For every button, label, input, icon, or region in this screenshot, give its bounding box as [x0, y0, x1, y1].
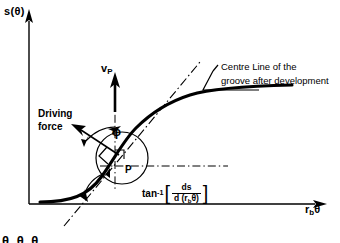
formula-denominator: d (rbθ) — [172, 193, 201, 204]
velocity-label: vP — [101, 62, 112, 76]
right-angle-marker — [99, 147, 108, 164]
engineering-diagram: s(θ) rbθ vP Driving force ϕ P Centre Lin… — [0, 0, 340, 243]
driving-force-label-line2: force — [38, 121, 72, 134]
x-axis-label: rbθ — [305, 203, 320, 217]
groove-annotation-label: Centre Line of the groove after developm… — [221, 60, 329, 88]
formula-bracket-open: [ — [164, 184, 170, 202]
driving-force-label-line1: Driving — [38, 108, 72, 121]
formula-fraction: dsd (rbθ) — [172, 183, 201, 204]
formula-bracket-close: ] — [203, 184, 209, 202]
groove-annotation-line2: groove after development — [221, 74, 329, 88]
formula-exponent: -1 — [157, 189, 163, 197]
slope-angle-formula: tan-1[dsd (rbθ)] — [142, 183, 209, 204]
groove-annotation-line1: Centre Line of the — [221, 60, 329, 74]
velocity-vector-arrow — [110, 72, 120, 112]
point-p-label: P — [125, 164, 132, 176]
formula-numerator: ds — [179, 183, 193, 193]
y-axis-label: s(θ) — [4, 5, 25, 18]
formula-tan: tan — [142, 188, 157, 200]
y-axis — [25, 9, 33, 204]
phi-angle-label: ϕ — [112, 126, 121, 140]
point-p-circle — [96, 132, 148, 184]
driving-force-label: Driving force — [38, 108, 72, 133]
cropped-bottom-text: θ θ θ — [2, 234, 40, 243]
